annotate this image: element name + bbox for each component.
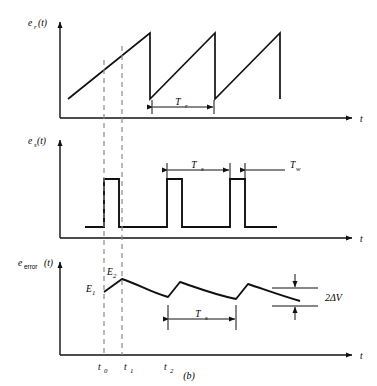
time-mark-t1: t — [124, 362, 127, 372]
time-mark-t2: t — [164, 362, 167, 372]
ramp-period-label: T — [175, 97, 181, 107]
sample-period-dimension — [167, 163, 230, 179]
panel-error: E 1 E 2 T s 2ΔV e error (t) t — [18, 258, 363, 361]
sample-width-label-sub: w — [296, 165, 301, 172]
sample-period-label: T — [191, 160, 197, 170]
error-period-label: T — [195, 309, 201, 319]
error-ripple-label: 2ΔV — [325, 292, 344, 303]
sample-ylabel: e — [28, 136, 32, 146]
error-ylabel-tail: (t) — [44, 258, 53, 269]
error-period-label-sub: s — [205, 314, 208, 321]
sample-width-dimension — [245, 163, 285, 179]
panel-sample: T s T w e s (t) t — [28, 136, 363, 244]
waveform-figure: T r e r (t) t T s T w e s (t) t — [0, 0, 377, 386]
time-mark-t0-sub: 0 — [104, 367, 108, 374]
ramp-xlabel: t — [360, 114, 363, 124]
error-period-dimension — [168, 305, 236, 330]
ramp-ylabel-sub: r — [34, 23, 37, 30]
error-ylabel: e — [18, 258, 22, 268]
error-level1-label-sub: 1 — [92, 289, 95, 296]
error-level1-label: E — [85, 284, 92, 294]
sample-period-label-sub: s — [201, 165, 204, 172]
error-level2-label: E — [106, 267, 113, 277]
error-ripple-dimension — [272, 274, 318, 320]
time-mark-t1-sub: 1 — [130, 367, 133, 374]
ramp-period-label-sub: r — [185, 102, 188, 109]
panel-ramp: T r e r (t) t — [28, 18, 363, 124]
ramp-ylabel-tail: (t) — [38, 18, 47, 29]
error-trace — [104, 279, 300, 301]
sample-trace — [85, 179, 277, 227]
figure-caption: (b) — [183, 370, 195, 382]
sample-xlabel: t — [360, 234, 363, 244]
figure-svg: T r e r (t) t T s T w e s (t) t — [0, 0, 377, 386]
ramp-ylabel: e — [28, 18, 32, 28]
time-mark-t2-sub: 2 — [170, 367, 174, 374]
time-mark-t0: t — [98, 362, 101, 372]
ramp-trace — [68, 33, 280, 99]
sample-ylabel-tail: (t) — [37, 136, 46, 147]
error-xlabel: t — [360, 351, 363, 361]
error-ylabel-sub: error — [24, 263, 38, 270]
time-axis-labels: t 0 t 1 t 2 — [98, 362, 174, 374]
ramp-period-dimension — [152, 100, 214, 114]
error-level2-label-sub: 2 — [113, 272, 117, 279]
